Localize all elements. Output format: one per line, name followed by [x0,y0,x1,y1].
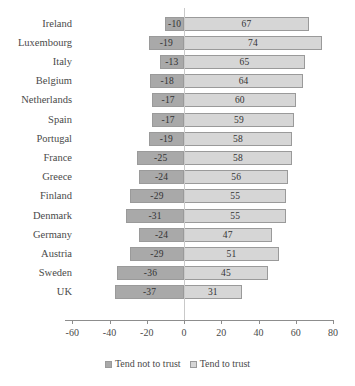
category-label: Luxembourg [0,37,72,49]
bar-tend-not-to-trust: -10 [165,17,184,31]
bar-value-label: -31 [148,211,161,221]
bar-tend-not-to-trust: -31 [126,209,184,223]
bar-tend-not-to-trust: -24 [139,228,184,242]
x-axis-tick [296,320,297,324]
category-label: Finland [0,190,72,202]
bar-value-label: 55 [230,191,240,201]
x-axis-tick [184,320,185,324]
bar-value-label: -18 [161,76,174,86]
category-label: UK [0,286,72,298]
bar-value-label: 58 [233,134,243,144]
bar-value-label: 67 [241,19,251,29]
chart-row: Sweden-3645 [0,264,355,283]
bar-value-label: 45 [221,268,231,278]
legend-label: Tend not to trust [115,358,181,370]
bar-tend-to-trust: 64 [184,74,303,88]
bar-tend-not-to-trust: -29 [130,189,184,203]
bar-value-label: 60 [235,95,245,105]
x-axis-tick-label: 60 [276,327,316,339]
bar-tend-to-trust: 58 [184,151,292,165]
category-label: Ireland [0,18,72,30]
bar-value-label: 74 [248,38,258,48]
legend-label: Tend to trust [200,358,250,370]
category-label: Denmark [0,210,72,222]
bar-value-label: -24 [155,230,168,240]
zero-axis-line [184,8,185,320]
bar-value-label: 58 [233,153,243,163]
category-label: France [0,152,72,164]
bar-tend-not-to-trust: -18 [150,74,184,88]
bar-value-label: -29 [150,249,163,259]
chart-row: Austria-2951 [0,244,355,263]
bar-tend-to-trust: 45 [184,266,268,280]
bar-tend-not-to-trust: -24 [139,170,184,184]
bar-tend-not-to-trust: -29 [130,247,184,261]
bar-tend-to-trust: 74 [184,36,322,50]
category-label: Portugal [0,133,72,145]
bar-tend-not-to-trust: -13 [160,55,184,69]
x-axis-tick-label: -20 [127,327,167,339]
x-axis-tick [333,320,334,324]
category-label: Belgium [0,75,72,87]
diverging-bar-chart: Ireland-1067Luxembourg-1974Italy-1365Bel… [0,0,355,386]
bar-tend-to-trust: 58 [184,132,292,146]
bar-tend-not-to-trust: -37 [115,285,184,299]
x-axis-tick [147,320,148,324]
chart-row: Greece-2456 [0,168,355,187]
category-label: Netherlands [0,94,72,106]
x-axis-line [65,320,334,321]
bar-tend-to-trust: 55 [184,189,286,203]
bar-tend-to-trust: 67 [184,17,309,31]
chart-row: Finland-2955 [0,187,355,206]
bar-tend-to-trust: 59 [184,113,294,127]
bar-value-label: -37 [143,287,156,297]
bar-value-label: 59 [234,115,244,125]
bar-value-label: -13 [165,57,178,67]
chart-row: Germany-2447 [0,225,355,244]
bar-value-label: 64 [239,76,249,86]
chart-row: Spain-1759 [0,110,355,129]
chart-row: Luxembourg-1974 [0,33,355,52]
category-label: Austria [0,248,72,260]
bar-tend-not-to-trust: -17 [152,93,184,107]
bar-tend-to-trust: 65 [184,55,305,69]
x-axis-tick-label: 0 [164,327,204,339]
category-label: Sweden [0,267,72,279]
bar-tend-to-trust: 31 [184,285,242,299]
legend-item: Tend to trust [190,358,250,370]
bar-tend-to-trust: 60 [184,93,296,107]
category-label: Spain [0,114,72,126]
chart-row: Denmark-3155 [0,206,355,225]
bar-tend-to-trust: 47 [184,228,272,242]
x-axis-tick-label: 20 [201,327,241,339]
x-axis-tick [221,320,222,324]
bar-tend-to-trust: 55 [184,209,286,223]
x-axis-tick [110,320,111,324]
x-axis-tick [259,320,260,324]
bar-tend-not-to-trust: -17 [152,113,184,127]
legend-swatch-icon [105,361,112,368]
x-axis-tick-label: -40 [90,327,130,339]
x-axis-tick-label: 80 [313,327,353,339]
bar-value-label: -17 [162,95,175,105]
bar-value-label: 65 [240,57,250,67]
bar-value-label: -17 [162,115,175,125]
chart-row: Netherlands-1760 [0,91,355,110]
bar-value-label: 31 [208,287,218,297]
legend-swatch-icon [190,361,197,368]
x-axis-tick [72,320,73,324]
x-axis-tick-label: -60 [52,327,92,339]
chart-row: France-2558 [0,148,355,167]
bar-value-label: 47 [223,230,233,240]
x-axis-tick-label: 40 [239,327,279,339]
category-label: Italy [0,56,72,68]
category-label: Germany [0,229,72,241]
bar-value-label: 56 [231,172,241,182]
bar-value-label: 55 [230,211,240,221]
bar-tend-to-trust: 51 [184,247,279,261]
bar-value-label: -19 [160,134,173,144]
chart-row: UK-3731 [0,283,355,302]
chart-row: Italy-1365 [0,52,355,71]
bar-value-label: -25 [154,153,167,163]
plot-area: Ireland-1067Luxembourg-1974Italy-1365Bel… [0,0,355,322]
